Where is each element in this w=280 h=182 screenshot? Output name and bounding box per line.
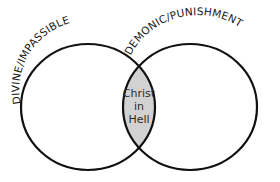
intersection-label-line2: in [134, 100, 144, 113]
right-set-label: DEMONIC/PUNISHMENT [122, 5, 246, 57]
left-set-label: DIVINE/IMPASSIBLE [9, 13, 71, 105]
venn-diagram: DIVINE/IMPASSIBLE DEMONIC/PUNISHMENT Chr… [0, 0, 280, 182]
intersection-label-line1: Christ [123, 87, 156, 100]
intersection-label-line3: Hell [128, 113, 149, 126]
